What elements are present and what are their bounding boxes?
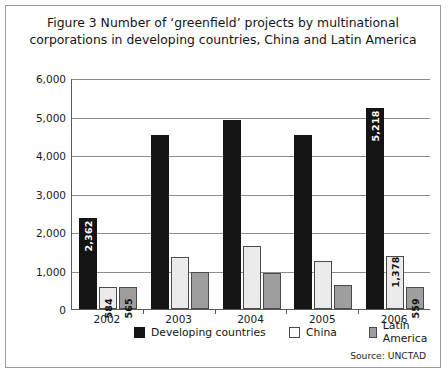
figure-frame: Figure 3 Number of ‘greenfield’ projects… (5, 5, 441, 368)
bar-group: 5,2181,378559 (366, 79, 424, 309)
y-axis-tick-label: 5,000 (14, 112, 66, 124)
legend-swatch-icon (369, 327, 377, 338)
x-axis-tick-mark (143, 310, 144, 314)
plot-area: 2,3625845655,2181,378559 (71, 79, 430, 310)
bar-2004-china[interactable] (243, 246, 261, 309)
bar-group: 2,362584565 (79, 79, 137, 309)
bar-2006-developing[interactable]: 5,218 (366, 108, 384, 309)
y-axis-tick-label: 3,000 (14, 189, 66, 201)
bar-value-label: 559 (410, 293, 421, 319)
x-axis-tick-mark (215, 310, 216, 314)
legend-item-latin[interactable]: Latin America (369, 319, 431, 345)
bar-value-label: 2,362 (82, 226, 93, 252)
y-axis-tick-label: 2,000 (14, 227, 66, 239)
y-axis-tick-label: 1,000 (14, 266, 66, 278)
x-axis-tick-mark (358, 310, 359, 314)
legend-item-label: China (306, 326, 337, 339)
bar-2003-developing[interactable] (151, 135, 169, 309)
bar-2005-china[interactable] (314, 261, 332, 309)
x-axis-tick-label: 2003 (165, 313, 192, 325)
bar-2004-developing[interactable] (223, 120, 241, 309)
legend-swatch-icon (134, 327, 145, 338)
source-note: Source: UNCTAD (350, 350, 426, 361)
bar-2002-china[interactable]: 584 (99, 287, 117, 309)
bar-group (223, 79, 281, 309)
x-axis-tick-label: 2005 (309, 313, 336, 325)
bar-2002-developing[interactable]: 2,362 (79, 218, 97, 309)
x-axis-tick-mark (286, 310, 287, 314)
legend-item-label: Developing countries (151, 326, 266, 339)
bar-value-label: 1,378 (390, 261, 401, 287)
y-axis-tick-label: 6,000 (14, 73, 66, 85)
x-axis-tick-label: 2002 (94, 313, 121, 325)
bar-2006-latin[interactable]: 559 (406, 287, 424, 309)
bar-group (151, 79, 209, 309)
legend-swatch-icon (289, 327, 300, 338)
chart-area: 6,0005,0004,0003,0002,0001,0000 2,362584… (6, 6, 442, 369)
legend-item-china[interactable]: China (289, 326, 337, 339)
y-axis-labels: 6,0005,0004,0003,0002,0001,0000 (12, 79, 66, 310)
bar-2005-developing[interactable] (294, 135, 312, 309)
bar-2006-china[interactable]: 1,378 (386, 256, 404, 309)
y-axis-tick-label: 4,000 (14, 150, 66, 162)
x-axis-tick-label: 2004 (237, 313, 264, 325)
y-axis-tick-label: 0 (14, 304, 66, 316)
bar-2005-latin[interactable] (334, 285, 352, 309)
bar-2003-china[interactable] (171, 257, 189, 309)
bar-2002-latin[interactable]: 565 (119, 287, 137, 309)
legend-item-label: Latin America (383, 319, 431, 345)
bar-2003-latin[interactable] (191, 272, 209, 309)
bar-value-label: 565 (122, 293, 133, 319)
bar-group (294, 79, 352, 309)
bar-value-label: 5,218 (370, 116, 381, 142)
legend-item-developing[interactable]: Developing countries (134, 326, 266, 339)
bar-2004-latin[interactable] (263, 273, 281, 309)
